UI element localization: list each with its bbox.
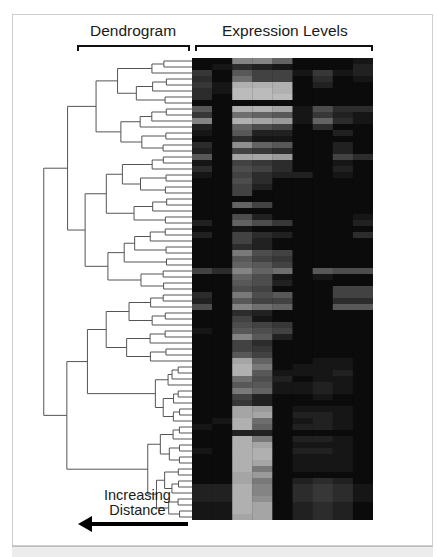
- heatmap-cell: [353, 400, 373, 406]
- heatmap-cell: [353, 346, 373, 352]
- heatmap-cell: [272, 70, 292, 76]
- heatmap-cell: [252, 316, 272, 322]
- heatmap-cell: [353, 430, 373, 436]
- heatmap-cell: [192, 352, 212, 358]
- heatmap-cell: [272, 352, 292, 358]
- heatmap-cell: [313, 424, 333, 430]
- heatmap-cell: [252, 310, 272, 316]
- heatmap-cell: [192, 70, 212, 76]
- heatmap-cell: [212, 214, 232, 220]
- heatmap-cell: [272, 202, 292, 208]
- heatmap-cell: [293, 142, 313, 148]
- heatmap-cell: [192, 172, 212, 178]
- heatmap-cell: [293, 466, 313, 472]
- heatmap-cell: [252, 460, 272, 466]
- heatmap-cell: [252, 448, 272, 454]
- heatmap-cell: [353, 130, 373, 136]
- heatmap-cell: [252, 82, 272, 88]
- heatmap-cell: [313, 220, 333, 226]
- heatmap-cell: [252, 142, 272, 148]
- heatmap-cell: [293, 154, 313, 160]
- heatmap-cell: [293, 436, 313, 442]
- heatmap-cell: [272, 190, 292, 196]
- heatmap-cell: [293, 508, 313, 514]
- heatmap-cell: [252, 484, 272, 490]
- heatmap-cell: [252, 508, 272, 514]
- heatmap-cell: [293, 100, 313, 106]
- heatmap-cell: [313, 340, 333, 346]
- heatmap-cell: [212, 238, 232, 244]
- heatmap-cell: [313, 358, 333, 364]
- heatmap-cell: [252, 370, 272, 376]
- heatmap-cell: [333, 274, 353, 280]
- heatmap-cell: [293, 394, 313, 400]
- heatmap-cell: [192, 316, 212, 322]
- heatmap-cell: [212, 292, 232, 298]
- heatmap-cell: [232, 460, 252, 466]
- heatmap-cell: [192, 64, 212, 70]
- heatmap-cell: [353, 448, 373, 454]
- heatmap-cell: [232, 412, 252, 418]
- heatmap-cell: [192, 322, 212, 328]
- heatmap-cell: [353, 64, 373, 70]
- heatmap-cell: [192, 466, 212, 472]
- heatmap-cell: [252, 166, 272, 172]
- heatmap-cell: [293, 340, 313, 346]
- heatmap-cell: [313, 256, 333, 262]
- heatmap-cell: [212, 472, 232, 478]
- heatmap-cell: [272, 400, 292, 406]
- heatmap-cell: [192, 514, 212, 520]
- heatmap-cell: [232, 268, 252, 274]
- heatmap-cell: [313, 316, 333, 322]
- heatmap-cell: [333, 508, 353, 514]
- heatmap-cell: [293, 106, 313, 112]
- heatmap-cell: [212, 280, 232, 286]
- heatmap-cell: [252, 340, 272, 346]
- heatmap-cell: [293, 76, 313, 82]
- heatmap-cell: [232, 244, 252, 250]
- heatmap-cell: [313, 448, 333, 454]
- heatmap-cell: [333, 268, 353, 274]
- heatmap-cell: [313, 268, 333, 274]
- heatmap-cell: [353, 154, 373, 160]
- heatmap-cell: [353, 100, 373, 106]
- heatmap-cell: [192, 454, 212, 460]
- heatmap-cell: [272, 130, 292, 136]
- heatmap-cell: [333, 454, 353, 460]
- heatmap-cell: [353, 94, 373, 100]
- heatmap-cell: [293, 406, 313, 412]
- heatmap-cell: [232, 292, 252, 298]
- heatmap-cell: [212, 430, 232, 436]
- heatmap-cell: [293, 484, 313, 490]
- heatmap-cell: [272, 142, 292, 148]
- heatmap-cell: [212, 322, 232, 328]
- heatmap-cell: [333, 502, 353, 508]
- heatmap-cell: [212, 376, 232, 382]
- heatmap-cell: [293, 124, 313, 130]
- heatmap-cell: [212, 142, 232, 148]
- heatmap-cell: [252, 376, 272, 382]
- heatmap-cell: [313, 130, 333, 136]
- heatmap-cell: [192, 184, 212, 190]
- heatmap-cell: [212, 130, 232, 136]
- heatmap-cell: [293, 496, 313, 502]
- heatmap-cell: [212, 466, 232, 472]
- heatmap-cell: [252, 88, 272, 94]
- heatmap-cell: [252, 208, 272, 214]
- heatmap-cell: [293, 130, 313, 136]
- heatmap-cell: [333, 412, 353, 418]
- heatmap-cell: [333, 424, 353, 430]
- heatmap-cell: [333, 370, 353, 376]
- heatmap-cell: [232, 124, 252, 130]
- heatmap-cell: [192, 154, 212, 160]
- heatmap-cell: [212, 148, 232, 154]
- heatmap-cell: [232, 208, 252, 214]
- heatmap-cell: [293, 166, 313, 172]
- heatmap-cell: [333, 88, 353, 94]
- heatmap-cell: [212, 232, 232, 238]
- heatmap-cell: [353, 442, 373, 448]
- heatmap-cell: [232, 346, 252, 352]
- heatmap-cell: [212, 502, 232, 508]
- heatmap-cell: [192, 100, 212, 106]
- heatmap-cell: [232, 490, 252, 496]
